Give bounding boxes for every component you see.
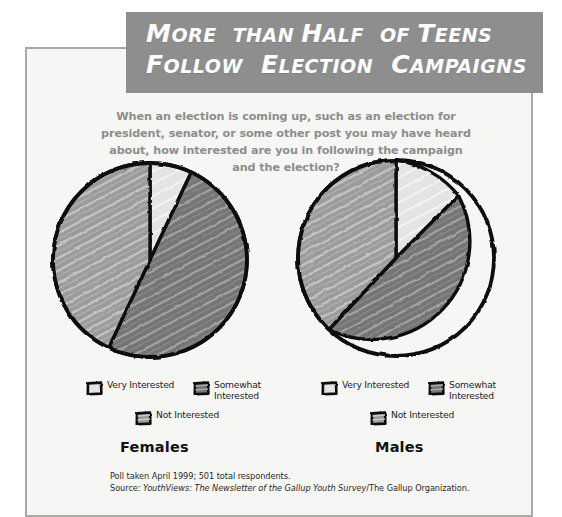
title-banner: MORE THAN HALF OF TEENS FOLLOW ELECTION … — [126, 12, 543, 93]
title-line-1: MORE THAN HALF OF TEENS — [146, 21, 525, 46]
footnote-source-line: Source: YouthViews: The Newsletter of th… — [110, 483, 530, 495]
pie-chart-females — [53, 163, 247, 357]
footnote-poll-line: Poll taken April 1999; 501 total respond… — [110, 471, 530, 483]
title-line-2: FOLLOW ELECTION CAMPAIGNS — [146, 52, 525, 77]
pie-chart-males — [298, 160, 494, 356]
footnote-source-prefix: Source: — [110, 483, 143, 493]
footnote-source-title: YouthViews: The Newsletter of the Gallup… — [143, 483, 366, 493]
footnote-block: Poll taken April 1999; 501 total respond… — [110, 471, 530, 495]
footnote-source-suffix: /The Gallup Organization. — [366, 483, 469, 493]
chart-question-subtitle: When an election is coming up, such as a… — [100, 108, 472, 176]
